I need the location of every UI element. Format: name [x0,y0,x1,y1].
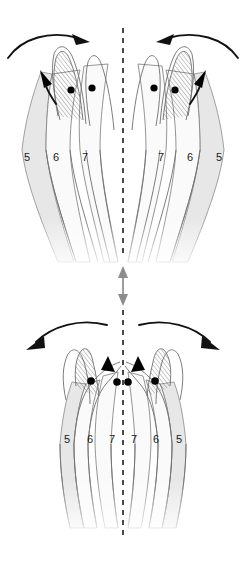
upper-left-label-7: 7 [82,151,88,163]
upper-right-label-7: 7 [158,151,164,163]
upper-left-dot-outer [88,84,95,91]
upper-right-label-5: 5 [216,151,222,163]
lower-left-label-5: 5 [64,433,70,445]
upper-left-dot-inner [67,86,74,93]
lower-right-label-5: 5 [176,433,182,445]
lower-right-label-6: 6 [153,433,159,445]
upper-left-label-5: 5 [24,151,30,163]
anatomical-diagram: 5 6 7 7 6 5 [0,0,246,585]
lower-right-dot-outer [151,377,159,385]
upper-left-label-6: 6 [53,151,59,163]
lower-left-dot-inner [113,378,121,386]
lower-left-label-6: 6 [87,433,93,445]
upper-right-dot-inner [171,86,178,93]
lower-left-label-7: 7 [109,433,115,445]
upper-right-dot-outer [150,84,157,91]
lower-left-dot-outer [87,377,95,385]
lower-right-dot-inner [124,378,132,386]
lower-right-label-7: 7 [131,433,137,445]
upper-right-label-6: 6 [187,151,193,163]
